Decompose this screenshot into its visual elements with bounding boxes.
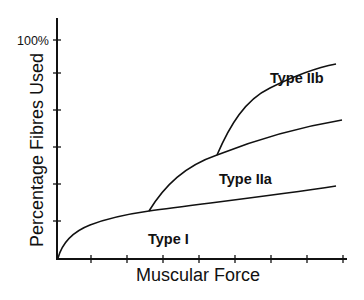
y-axis-label: Percentage Fibres Used xyxy=(27,53,47,247)
region-label-type-2b: Type IIb xyxy=(270,70,324,86)
region-label-type-1: Type I xyxy=(148,231,189,247)
region-label-type-2a: Type IIa xyxy=(219,171,273,187)
x-axis-label: Muscular Force xyxy=(136,265,260,285)
fibre-recruitment-chart: 100% Type I Type IIa Type IIb Muscular F… xyxy=(0,0,364,300)
y-tick-label-100: 100% xyxy=(17,34,49,48)
type-1-curve xyxy=(58,186,336,258)
type-2a-curve xyxy=(149,120,342,211)
